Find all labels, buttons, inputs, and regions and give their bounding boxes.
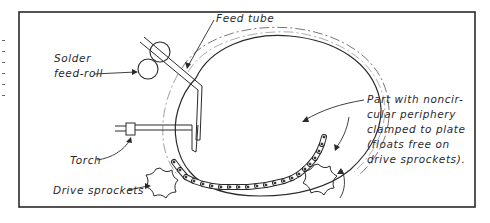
torch-tip bbox=[192, 125, 198, 152]
left-drive-sprocket-icon bbox=[146, 168, 178, 198]
label-torch: Torch bbox=[70, 154, 101, 167]
label-part-5: drive sprockets). bbox=[367, 153, 465, 166]
part-outline bbox=[175, 35, 381, 196]
label-feed-tube: Feed tube bbox=[216, 12, 274, 25]
label-solder-feed-roll-2: feed-roll bbox=[54, 67, 103, 80]
drive-chain bbox=[173, 136, 325, 188]
feed-roll-lower-icon bbox=[138, 59, 158, 79]
rotation-arrow-icon bbox=[336, 117, 349, 148]
label-part-3: clamped to plate bbox=[367, 123, 466, 136]
label-part-2: cular periphery bbox=[367, 108, 456, 121]
feed-tube-nozzle bbox=[196, 86, 202, 140]
label-solder-feed-roll-1: Solder bbox=[54, 52, 91, 65]
label-part-1: Part with noncir- bbox=[367, 93, 463, 106]
label-part-4: (floats free on bbox=[367, 138, 450, 151]
label-drive-sprockets: Drive sprockets bbox=[53, 184, 144, 197]
rotation-arrow-icon bbox=[340, 170, 344, 198]
plate-outline-outer bbox=[182, 27, 389, 176]
torch-body-icon bbox=[126, 123, 135, 135]
